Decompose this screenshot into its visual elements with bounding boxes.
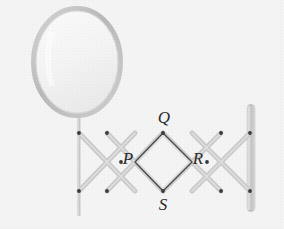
vertex-label-s: S [159,195,168,214]
figure-canvas: P Q R S [0,0,284,229]
vertex-label-r: R [192,149,204,168]
pivot-joint [248,131,252,135]
pivot-joint [77,131,81,135]
wall-mounting-bar [247,104,256,212]
pivot-joint [77,189,81,193]
oval-mirror [34,9,121,116]
vertex-label-p: P [122,149,133,168]
pivot-joint [105,131,109,135]
pivot-joint [161,131,165,135]
pivot-joint [205,160,209,164]
pivot-joint [248,189,252,193]
pivot-joint [105,189,109,193]
mirror-arm-diagram: P Q R S [0,0,284,229]
pivot-joint [219,189,223,193]
vertex-label-q: Q [158,108,170,127]
pivot-joint [161,189,165,193]
pivot-joint [219,131,223,135]
